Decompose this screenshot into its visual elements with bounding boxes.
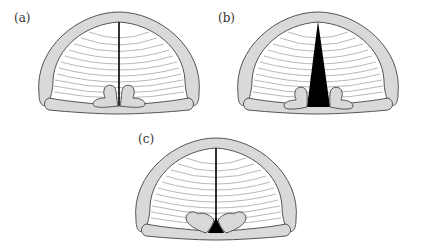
panel-a-label: (a) [14,11,31,25]
left-arytenoid [284,87,307,109]
panel-a: (a) [14,11,199,114]
left-arytenoid [93,85,118,107]
panel-c: (c) [136,132,297,240]
panel-b-label: (b) [218,11,235,25]
larynx-diagram: (a) (b) (c) [0,0,421,252]
right-arytenoid [330,87,353,109]
panel-b: (b) [218,11,398,114]
right-arytenoid [120,85,145,107]
panel-c-label: (c) [138,132,154,146]
